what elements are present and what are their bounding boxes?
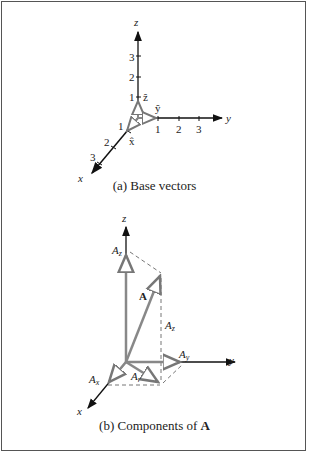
caption-a: (a) Base vectors — [0, 178, 309, 194]
y-tick-1: 1 — [155, 123, 161, 135]
x-tick-1: 1 — [118, 120, 124, 132]
x-axis-label-b: x — [76, 405, 82, 417]
z-tick-2: 2 — [129, 71, 135, 83]
z-tick-3: 3 — [129, 51, 135, 63]
z-hat-label: ẑ — [143, 91, 148, 103]
y-axis-label-b: y — [228, 354, 234, 366]
caption-b: (b) Components of A — [0, 418, 309, 434]
svg-text:Ay: Ay — [178, 348, 190, 362]
y-tick-3: 3 — [196, 123, 202, 135]
y-tick-2: 2 — [176, 123, 182, 135]
z-axis-label-b: z — [121, 212, 127, 224]
z-tick-1: 1 — [129, 91, 135, 103]
base-vectors-diagram: z y x 3 2 1 1 2 3 1 2 3 ẑ ŷ x̂ — [77, 16, 231, 184]
components-diagram: z y x A Az Az Ay Ax Ar — [76, 212, 235, 417]
diagram-canvas: z y x 3 2 1 1 2 3 1 2 3 ẑ ŷ x̂ — [0, 0, 309, 453]
svg-text:Ax: Ax — [88, 373, 100, 387]
y-hat-label: ŷ — [155, 102, 161, 114]
z-axis-label: z — [133, 16, 139, 28]
vector-A-label: A — [139, 290, 147, 302]
svg-text:Az: Az — [164, 319, 176, 333]
x-tick-3: 3 — [90, 151, 96, 163]
x-tick-2: 2 — [104, 136, 110, 148]
svg-text:Az: Az — [111, 244, 123, 258]
x-hat-label: x̂ — [129, 135, 135, 147]
y-axis-label: y — [225, 112, 231, 124]
